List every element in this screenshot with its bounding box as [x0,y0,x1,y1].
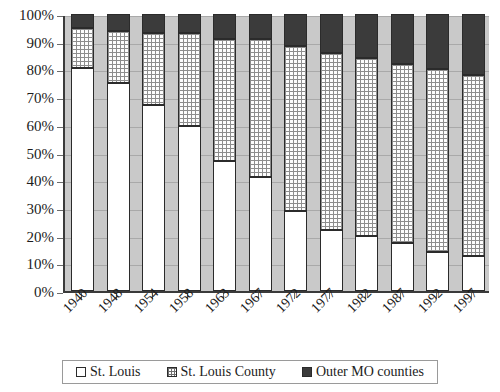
bar-column[interactable] [71,16,94,291]
legend-item[interactable]: St. Louis County [167,364,276,380]
bar-segment[interactable] [355,236,378,291]
bar-segment[interactable] [320,230,343,291]
legend-item[interactable]: St. Louis [76,364,141,380]
x-axis: 1940194819541958196319671972197719821987… [0,293,500,355]
bar-segment[interactable] [320,14,343,53]
bar-segment[interactable] [391,243,414,291]
bar-segment[interactable] [71,14,94,28]
plot-area [63,16,489,293]
white-square-icon [76,367,86,377]
bar-segment[interactable] [355,58,378,235]
y-tick-label: 40% [0,174,54,189]
legend-item[interactable]: Outer MO counties [302,364,424,380]
stacked-bar-chart: 0%10%20%30%40%50%60%70%80%90%100% 194019… [0,0,500,392]
bar-segment[interactable] [462,14,485,75]
bar-segment[interactable] [284,46,307,211]
y-tick-label: 20% [0,230,54,245]
bar-segment[interactable] [355,14,378,58]
y-tick-label: 80% [0,63,54,78]
bar-segment[interactable] [320,53,343,230]
bar-segment[interactable] [71,28,94,68]
y-tick-label: 10% [0,257,54,272]
legend-label: Outer MO counties [316,364,424,380]
bar-segment[interactable] [426,69,449,252]
grid-square-icon [167,367,177,377]
bar-segment[interactable] [426,252,449,291]
y-tick-label: 70% [0,91,54,106]
bar-segment[interactable] [71,68,94,291]
bar-segment[interactable] [142,105,165,291]
dark-square-icon [302,367,312,377]
bar-segment[interactable] [213,161,236,291]
bar-segment[interactable] [213,39,236,161]
bars-layer [65,16,489,291]
bar-column[interactable] [284,16,307,291]
bar-column[interactable] [142,16,165,291]
bar-segment[interactable] [178,126,201,291]
bar-segment[interactable] [107,31,130,84]
bar-column[interactable] [178,16,201,291]
bar-segment[interactable] [107,83,130,291]
bar-segment[interactable] [462,75,485,256]
bar-segment[interactable] [178,14,201,33]
bar-segment[interactable] [391,14,414,64]
bar-column[interactable] [462,16,485,291]
bar-segment[interactable] [284,14,307,46]
y-tick-label: 30% [0,202,54,217]
bar-column[interactable] [249,16,272,291]
y-tick-label: 50% [0,147,54,162]
bar-column[interactable] [391,16,414,291]
y-tick-label: 60% [0,119,54,134]
bar-segment[interactable] [249,177,272,291]
bar-segment[interactable] [391,64,414,243]
bar-segment[interactable] [249,14,272,39]
chart-legend: St. LouisSt. Louis CountyOuter MO counti… [62,360,438,384]
bar-segment[interactable] [142,14,165,33]
bar-segment[interactable] [426,14,449,69]
bar-segment[interactable] [249,39,272,178]
y-tick-label: 90% [0,36,54,51]
legend-label: St. Louis County [181,364,276,380]
bar-segment[interactable] [462,256,485,291]
bar-column[interactable] [320,16,343,291]
bar-column[interactable] [355,16,378,291]
bar-column[interactable] [213,16,236,291]
legend-label: St. Louis [90,364,141,380]
bar-column[interactable] [107,16,130,291]
bar-segment[interactable] [107,14,130,31]
bar-segment[interactable] [142,33,165,105]
bar-segment[interactable] [284,211,307,291]
bar-column[interactable] [426,16,449,291]
bar-segment[interactable] [213,14,236,39]
y-tick-label: 100% [0,8,54,23]
bar-segment[interactable] [178,33,201,126]
